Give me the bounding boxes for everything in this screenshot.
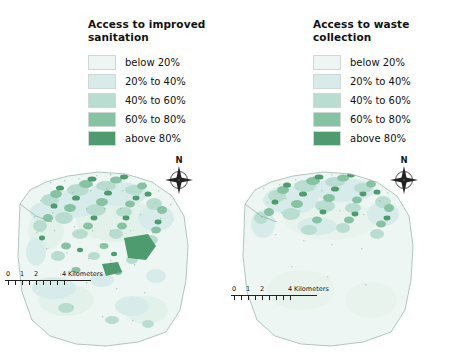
legend-swatch-class2 (313, 74, 341, 89)
legend-swatch-class4 (313, 112, 341, 127)
legend-title-sanitation: Access to improved sanitation (88, 18, 218, 44)
scalebar-baseline (5, 280, 91, 281)
legend-swatch-class5 (88, 131, 116, 146)
scalebar-tick-2: 2 (34, 270, 38, 278)
legend-title-waste: Access to waste collection (313, 18, 443, 44)
compass-north-label: N (400, 155, 407, 165)
legend-item: 20% to 40% (313, 72, 443, 91)
legend-item: 60% to 80% (88, 110, 218, 129)
scalebar-baseline (231, 295, 317, 296)
compass-rose-waste: N (387, 156, 421, 196)
legend-label-class5: above 80% (350, 133, 406, 144)
scalebar-sanitation: 0 1 2 4 Kilometers (5, 270, 91, 285)
legend-swatch-class1 (313, 55, 341, 70)
legend-title-line2: sanitation (88, 31, 218, 44)
legend-item: 20% to 40% (88, 72, 218, 91)
legend-swatch-class1 (88, 55, 116, 70)
legend-title-line1: Access to improved (88, 18, 218, 31)
legend-waste: Access to waste collection below 20% 20%… (313, 18, 443, 148)
compass-north-label: N (175, 155, 182, 165)
legend-swatch-class5 (313, 131, 341, 146)
legend-item: below 20% (313, 53, 443, 72)
scalebar-bar (231, 295, 317, 300)
scalebar-waste: 0 1 2 4 Kilometers (231, 285, 317, 300)
legend-item: 40% to 60% (313, 91, 443, 110)
map-figure-waste: N 0 1 2 4 Kilometers (231, 160, 446, 350)
legend-label-class2: 20% to 40% (350, 76, 411, 87)
scalebar-unit-label: Kilometers (68, 270, 103, 278)
map-panel-sanitation: Access to improved sanitation below 20% … (0, 0, 225, 357)
legend-label-class1: below 20% (350, 57, 405, 68)
legend-sanitation: Access to improved sanitation below 20% … (88, 18, 218, 148)
scalebar-tick-labels: 0 1 2 4 Kilometers (5, 270, 91, 279)
legend-label-class4: 60% to 80% (350, 114, 411, 125)
legend-label-class1: below 20% (125, 57, 180, 68)
scalebar-tick-0: 0 (6, 270, 10, 278)
scalebar-unit-label: Kilometers (294, 285, 329, 293)
legend-title-line1: Access to waste (313, 18, 443, 31)
scalebar-tick-2: 2 (260, 285, 264, 293)
legend-title-line2: collection (313, 31, 443, 44)
map-panel-waste: Access to waste collection below 20% 20%… (225, 0, 450, 357)
legend-label-class3: 40% to 60% (350, 95, 411, 106)
scalebar-tick-0: 0 (232, 285, 236, 293)
legend-label-class3: 40% to 60% (125, 95, 186, 106)
legend-swatch-class4 (88, 112, 116, 127)
legend-item: below 20% (88, 53, 218, 72)
legend-item: above 80% (88, 129, 218, 148)
legend-swatch-class3 (313, 93, 341, 108)
scalebar-tick-1: 1 (246, 285, 250, 293)
legend-label-class4: 60% to 80% (125, 114, 186, 125)
legend-item: 60% to 80% (313, 110, 443, 129)
scalebar-bar (5, 280, 91, 285)
scalebar-tick-3: 4 (62, 270, 66, 278)
legend-label-class2: 20% to 40% (125, 76, 186, 87)
legend-item: above 80% (313, 129, 443, 148)
scalebar-tick-3: 4 (288, 285, 292, 293)
scalebar-tick-1: 1 (20, 270, 24, 278)
map-figure-sanitation: N 0 1 2 4 Kilometers (6, 160, 221, 350)
legend-item: 40% to 60% (88, 91, 218, 110)
compass-rose-sanitation: N (162, 156, 196, 196)
legend-label-class5: above 80% (125, 133, 181, 144)
scalebar-tick-labels: 0 1 2 4 Kilometers (231, 285, 317, 294)
legend-swatch-class3 (88, 93, 116, 108)
legend-swatch-class2 (88, 74, 116, 89)
